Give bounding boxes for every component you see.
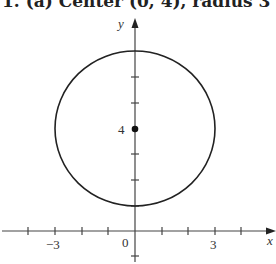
circle-plot: y x −3 0 3 4 xyxy=(0,0,276,264)
x-axis-label: x xyxy=(266,233,273,248)
y-axis-label: y xyxy=(116,16,124,31)
x-tick-label-3: 3 xyxy=(210,237,217,252)
y-tick-label-4: 4 xyxy=(118,122,125,137)
x-axis xyxy=(2,227,276,235)
x-tick-label-0: 0 xyxy=(122,235,129,250)
center-point xyxy=(132,126,139,133)
y-axis xyxy=(131,18,139,262)
y-arrow-icon xyxy=(132,18,139,28)
x-tick-label-neg3: −3 xyxy=(46,237,60,252)
